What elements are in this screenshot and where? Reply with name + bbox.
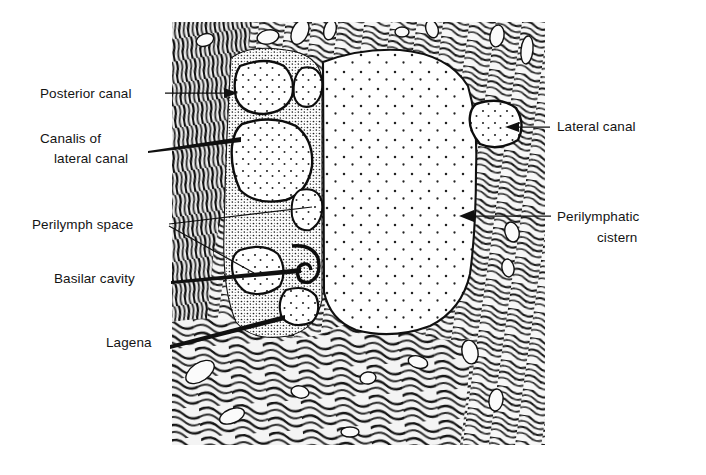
- label-perilymph-space: Perilymph space: [32, 217, 133, 232]
- label-basilar-cavity: Basilar cavity: [54, 271, 135, 286]
- label-canalis-of-lateral-canal-line2: lateral canal: [54, 151, 128, 166]
- label-perilymphatic-cistern-line2: cistern: [597, 230, 637, 245]
- illustration: [172, 17, 545, 445]
- perilymph-space-cavity-upper: [292, 189, 323, 230]
- basilar-cavity-cavity: [232, 247, 284, 294]
- label-perilymphatic-cistern-line1: Perilymphatic: [557, 209, 639, 224]
- figure-root: Posterior canal Canalis of lateral canal…: [0, 0, 706, 475]
- label-lateral-canal: Lateral canal: [557, 119, 636, 134]
- accessory-canal-cavity-upper: [294, 67, 323, 107]
- label-canalis-of-lateral-canal-line1: Canalis of: [40, 131, 101, 146]
- label-posterior-canal: Posterior canal: [40, 86, 132, 101]
- perilymphatic-cistern-cavity: [323, 50, 476, 334]
- anatomical-figure: Posterior canal Canalis of lateral canal…: [0, 0, 706, 475]
- label-lagena: Lagena: [106, 335, 152, 350]
- posterior-canal-cavity: [235, 61, 293, 114]
- lagena-cavity: [280, 288, 319, 325]
